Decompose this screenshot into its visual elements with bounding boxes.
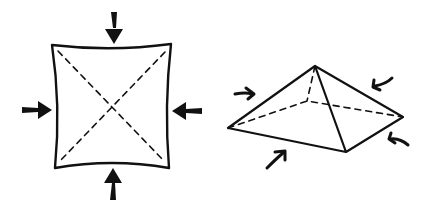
curved-arrow-icon: [235, 88, 254, 99]
arrow-left-icon: [172, 102, 202, 120]
arrow-down-icon: [105, 12, 123, 44]
arrow-right-icon: [22, 101, 52, 119]
curved-arrows: [235, 78, 408, 168]
curved-arrow-icon: [389, 133, 408, 145]
pyramid-figure: [228, 66, 403, 152]
arrow-up-icon: [104, 168, 122, 200]
curved-arrow-icon: [373, 78, 392, 90]
flat-square-figure: [52, 44, 171, 168]
pyramid-hidden-edges: [228, 66, 403, 128]
diagram-canvas: [0, 0, 430, 215]
pyramid-visible-edges: [228, 66, 403, 152]
square-diagonal-1: [58, 51, 164, 161]
curved-arrow-icon: [267, 151, 285, 168]
